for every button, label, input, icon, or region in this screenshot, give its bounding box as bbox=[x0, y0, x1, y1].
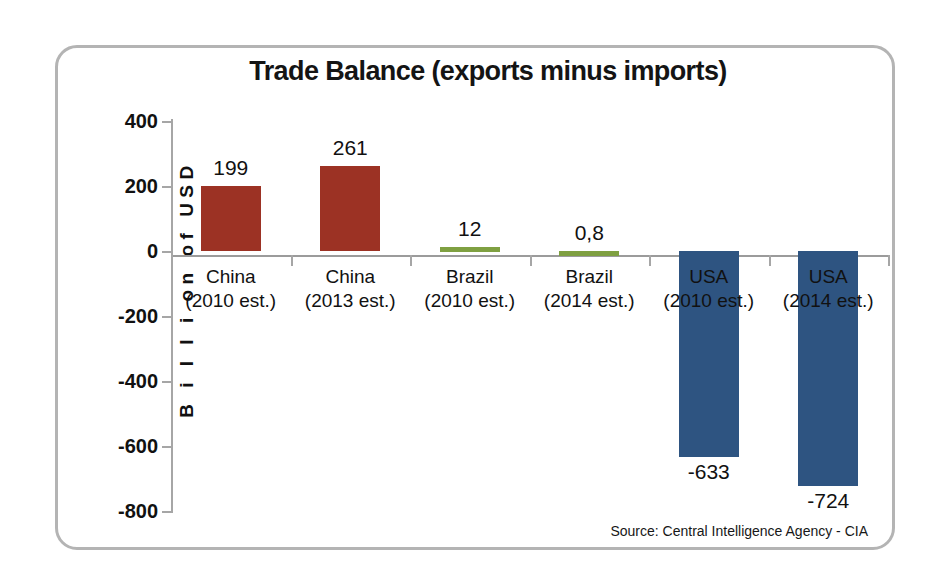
y-axis-tick bbox=[162, 381, 171, 383]
x-axis-tick bbox=[530, 255, 532, 266]
x-axis-tick bbox=[410, 255, 412, 266]
category-period: (2010 est.) bbox=[663, 289, 754, 313]
bar-value-label: 0,8 bbox=[575, 221, 604, 245]
category-name: China bbox=[305, 265, 396, 289]
category-label: USA(2014 est.) bbox=[783, 265, 874, 314]
y-axis-tick-label: 0 bbox=[147, 240, 158, 263]
bar bbox=[440, 247, 500, 252]
y-axis-tick bbox=[162, 511, 171, 513]
category-name: China bbox=[185, 265, 276, 289]
category-name: USA bbox=[783, 265, 874, 289]
y-axis-tick-label: 200 bbox=[125, 175, 158, 198]
category-label: China(2010 est.) bbox=[185, 265, 276, 314]
x-axis-tick bbox=[171, 255, 173, 266]
bar bbox=[320, 166, 380, 251]
y-axis-tick-label: -800 bbox=[118, 500, 158, 523]
category-period: (2010 est.) bbox=[185, 289, 276, 313]
bar bbox=[201, 186, 261, 251]
x-axis-tick bbox=[291, 255, 293, 266]
bar-value-label: 199 bbox=[213, 156, 248, 180]
category-label: USA(2010 est.) bbox=[663, 265, 754, 314]
y-axis-tick-label: -200 bbox=[118, 305, 158, 328]
source-note: Source: Central Intelligence Agency - CI… bbox=[610, 523, 868, 539]
bar-value-label: -633 bbox=[688, 460, 730, 484]
chart-frame: Trade Balance (exports minus imports) B … bbox=[55, 45, 895, 550]
bar-value-label: 12 bbox=[458, 217, 481, 241]
y-axis-tick bbox=[162, 186, 171, 188]
y-axis-tick bbox=[162, 121, 171, 123]
x-axis-tick bbox=[769, 255, 771, 266]
chart-title: Trade Balance (exports minus imports) bbox=[168, 56, 808, 87]
category-label: China(2013 est.) bbox=[305, 265, 396, 314]
y-axis-tick bbox=[162, 251, 171, 253]
y-axis-tick bbox=[162, 316, 171, 318]
category-name: Brazil bbox=[424, 265, 515, 289]
category-period: (2010 est.) bbox=[424, 289, 515, 313]
category-name: USA bbox=[663, 265, 754, 289]
x-axis-tick bbox=[649, 255, 651, 266]
x-axis-tick bbox=[888, 255, 890, 266]
category-period: (2014 est.) bbox=[783, 289, 874, 313]
category-name: Brazil bbox=[544, 265, 635, 289]
category-period: (2014 est.) bbox=[544, 289, 635, 313]
category-label: Brazil(2014 est.) bbox=[544, 265, 635, 314]
y-axis-tick-label: 400 bbox=[125, 110, 158, 133]
plot-area: 4002000-200-400-600-800 199261120,8-633-… bbox=[171, 121, 888, 511]
y-axis-tick-label: -400 bbox=[118, 370, 158, 393]
bar-value-label: 261 bbox=[333, 136, 368, 160]
y-axis-tick-label: -600 bbox=[118, 435, 158, 458]
bar bbox=[559, 251, 619, 256]
category-label: Brazil(2010 est.) bbox=[424, 265, 515, 314]
y-axis-tick bbox=[162, 446, 171, 448]
category-period: (2013 est.) bbox=[305, 289, 396, 313]
bar-value-label: -724 bbox=[807, 489, 849, 513]
